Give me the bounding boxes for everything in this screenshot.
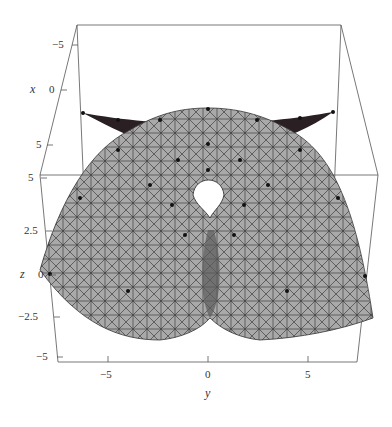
surface-front <box>0 0 392 427</box>
x-tick-label: −5 <box>52 38 64 50</box>
surface-plot <box>0 0 392 427</box>
x-tick-label: 5 <box>36 138 42 150</box>
y-tick-label: 0 <box>205 368 211 380</box>
x-axis-label: x <box>30 82 35 97</box>
z-tick-label: 5 <box>28 171 34 183</box>
x-tick-label: 0 <box>49 83 55 95</box>
z-tick-label: −5 <box>36 350 48 362</box>
z-axis-label: z <box>20 267 25 282</box>
y-tick-label: −5 <box>100 368 112 380</box>
y-axis-label: y <box>205 386 210 401</box>
z-tick-label: −2.5 <box>18 310 38 322</box>
y-tick-label: 5 <box>305 368 311 380</box>
z-tick-label: 2.5 <box>24 224 38 236</box>
z-tick-label: 0 <box>38 268 44 280</box>
